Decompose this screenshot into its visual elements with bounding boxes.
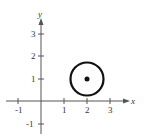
coordinate-plot: -1 1 2 3 x 3 2 1 -1 y bbox=[0, 0, 145, 138]
y-axis-label: y bbox=[37, 9, 42, 19]
svg-text:3: 3 bbox=[31, 29, 36, 39]
svg-text:-1: -1 bbox=[15, 105, 23, 115]
svg-text:-1: -1 bbox=[26, 119, 34, 129]
svg-text:1: 1 bbox=[31, 74, 36, 84]
x-axis-arrow-icon bbox=[123, 99, 130, 104]
svg-text:2: 2 bbox=[31, 51, 36, 61]
svg-text:3: 3 bbox=[108, 105, 113, 115]
x-axis-label: x bbox=[130, 96, 135, 106]
y-axis-arrow-icon bbox=[39, 18, 44, 25]
svg-text:1: 1 bbox=[62, 105, 67, 115]
center-point bbox=[85, 77, 90, 82]
svg-text:2: 2 bbox=[85, 105, 90, 115]
